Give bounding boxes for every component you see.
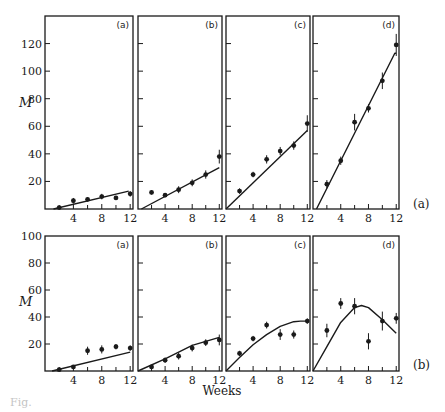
plot-area: 481220406080100120(a)4812(b)4812(c)4812(… (21, 16, 403, 387)
x-tick-label: 12 (123, 212, 137, 225)
figure-caption: Fig. (10, 396, 32, 409)
data-point (149, 365, 154, 370)
data-point (366, 339, 371, 344)
data-point (352, 120, 357, 125)
subplot-top-a: 481220406080100120(a) (21, 16, 137, 225)
y-tick-label: 100 (21, 230, 42, 243)
x-tick-label: 8 (277, 374, 284, 387)
x-tick-label: 4 (70, 374, 77, 387)
x-tick-label: 4 (162, 374, 169, 387)
x-tick-label: 4 (162, 212, 169, 225)
data-point (305, 121, 310, 126)
panel-letter: (c) (294, 240, 306, 250)
y-tick-label: 40 (28, 311, 42, 324)
data-point (190, 346, 195, 351)
data-point (264, 323, 269, 328)
data-point (85, 348, 90, 353)
data-point (352, 304, 357, 309)
x-tick-label: 4 (70, 212, 77, 225)
panel-letter: (a) (116, 20, 129, 30)
data-point (99, 194, 104, 199)
data-point (176, 187, 181, 192)
data-point (251, 172, 256, 177)
x-tick-label: 12 (123, 374, 137, 387)
subplot-top-d: 4812(d) (313, 16, 403, 225)
data-point (99, 347, 104, 352)
x-tick-label: 4 (250, 374, 257, 387)
data-point (237, 189, 242, 194)
y-tick-label: 40 (28, 148, 42, 161)
x-tick-label: 8 (365, 212, 372, 225)
data-point (305, 319, 310, 324)
y-tick-label: 80 (28, 257, 42, 270)
x-tick-label: 12 (389, 374, 403, 387)
data-point (114, 196, 119, 201)
row-label-b: (b) (413, 358, 430, 372)
panel-letter: (a) (116, 240, 129, 250)
panel-frame (138, 16, 222, 209)
data-point (366, 106, 371, 111)
data-point (128, 346, 133, 351)
model-curve (52, 352, 130, 371)
data-point (324, 328, 329, 333)
panel-frame (313, 16, 399, 209)
data-point (85, 197, 90, 202)
data-point (163, 193, 168, 198)
x-tick-label: 12 (389, 212, 403, 225)
x-tick-label: 12 (300, 374, 314, 387)
data-point (190, 180, 195, 185)
model-curve (313, 306, 396, 372)
y-tick-label: 20 (28, 175, 42, 188)
x-tick-label: 12 (212, 212, 226, 225)
panel-letter: (b) (205, 20, 218, 30)
data-point (217, 338, 222, 343)
subplot-top-c: 4812(c) (226, 16, 314, 225)
x-tick-label: 8 (277, 212, 284, 225)
x-tick-label: 8 (365, 374, 372, 387)
data-point (71, 198, 76, 203)
x-tick-label: 4 (337, 212, 344, 225)
data-point (380, 319, 385, 324)
data-point (394, 316, 399, 321)
panel-frame (226, 236, 310, 371)
data-point (338, 301, 343, 306)
data-point (324, 182, 329, 187)
subplot-bottom-a: 481220406080100(a) (21, 230, 137, 387)
y-axis-label-bottom: M (18, 294, 33, 309)
x-tick-label: 4 (337, 374, 344, 387)
x-tick-label: 12 (300, 212, 314, 225)
y-axis-label-top: M (18, 95, 33, 110)
subplot-bottom-c: 4812(c) (226, 236, 314, 387)
figure: 481220406080100120(a)4812(b)4812(c)4812(… (0, 0, 445, 412)
row-label-a: (a) (413, 197, 430, 211)
data-point (338, 158, 343, 163)
y-tick-label: 100 (21, 65, 42, 78)
data-point (149, 190, 154, 195)
data-point (278, 149, 283, 154)
x-tick-label: 8 (189, 212, 196, 225)
data-point (57, 367, 62, 372)
data-point (203, 172, 208, 177)
x-axis-label: Weeks (203, 384, 242, 398)
model-curve (54, 191, 129, 209)
y-tick-label: 20 (28, 338, 42, 351)
x-tick-label: 8 (189, 374, 196, 387)
panel-letter: (d) (382, 20, 395, 30)
data-point (394, 43, 399, 48)
data-point (291, 143, 296, 148)
subplot-top-b: 4812(b) (138, 16, 226, 225)
data-point (71, 365, 76, 370)
data-point (264, 157, 269, 162)
x-tick-label: 4 (250, 212, 257, 225)
panel-frame (313, 236, 399, 371)
x-tick-label: 8 (98, 212, 105, 225)
data-point (291, 332, 296, 337)
x-tick-label: 8 (98, 374, 105, 387)
data-point (176, 354, 181, 359)
model-curve (226, 321, 307, 371)
y-tick-label: 60 (28, 120, 42, 133)
subplot-bottom-d: 4812(d) (313, 236, 403, 387)
panel-letter: (b) (205, 240, 218, 250)
data-point (278, 332, 283, 337)
panel-frame (226, 16, 310, 209)
